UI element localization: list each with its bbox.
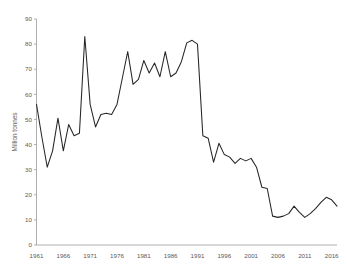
x-tick-label: 1986 <box>164 252 178 259</box>
y-axis-title-label: Million tonnes <box>11 112 18 151</box>
x-tick-label: 1976 <box>110 252 124 259</box>
x-tick-label: 1991 <box>191 252 205 259</box>
x-tick-label: 2016 <box>325 252 339 259</box>
y-axis-title: Million tonnes <box>11 112 18 151</box>
y-tick-label: 50 <box>25 116 32 123</box>
y-tick-label: 20 <box>25 191 32 198</box>
y-tick-label: 30 <box>25 166 32 173</box>
y-tick-label: 0 <box>29 241 33 248</box>
x-tick-label: 1981 <box>137 252 151 259</box>
y-tick-label: 90 <box>25 15 32 22</box>
x-tick-label: 2001 <box>244 252 258 259</box>
y-tick-label: 40 <box>25 141 32 148</box>
y-tick-label: 70 <box>25 65 32 72</box>
y-tick-label: 60 <box>25 91 32 98</box>
y-tick-label: 80 <box>25 40 32 47</box>
chart-container: 0102030405060708090 19611966197119761981… <box>0 0 348 274</box>
x-tick-label: 2011 <box>298 252 312 259</box>
x-axis: 1961196619711976198119861991199620012006… <box>30 245 339 259</box>
x-tick-label: 1971 <box>83 252 97 259</box>
data-series <box>37 37 338 218</box>
x-tick-label: 1996 <box>217 252 231 259</box>
line-chart: 0102030405060708090 19611966197119761981… <box>0 0 348 274</box>
x-tick-label: 2006 <box>271 252 285 259</box>
y-axis: 0102030405060708090 <box>25 15 36 248</box>
y-tick-label: 10 <box>25 216 32 223</box>
x-tick-label: 1961 <box>30 252 44 259</box>
series-line-1 <box>37 37 338 218</box>
x-tick-label: 1966 <box>56 252 70 259</box>
